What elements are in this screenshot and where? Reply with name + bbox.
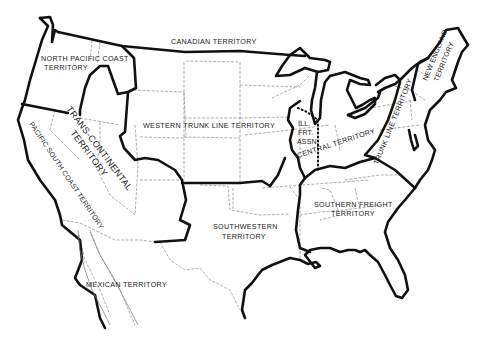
label-ill-frt-assn-2: FRT. (298, 129, 313, 136)
freight-territory-map: CANADIAN TERRITORY NORTH PACIFIC COAST T… (0, 0, 477, 344)
label-north-pacific-coast-2: TERRITORY (44, 63, 88, 72)
label-trunk-line: TRUNK LINE TERRITORY (372, 77, 415, 166)
southern-west (296, 178, 310, 252)
label-north-pacific-coast-1: NORTH PACIFIC COAST (41, 54, 129, 63)
label-southern-freight-2: TERRITORY (331, 209, 375, 218)
lake-michigan (311, 72, 330, 124)
lake-huron (330, 72, 375, 118)
wtl-south (182, 181, 270, 186)
label-western-trunk-line: WESTERN TRUNK LINE TERRITORY (143, 121, 275, 130)
chesapeake (409, 130, 418, 150)
npc-south (22, 104, 68, 113)
central-south (305, 158, 375, 178)
label-southwestern-1: SOUTHWESTERN (213, 222, 278, 231)
lake-superior (276, 48, 330, 76)
label-canadian: CANADIAN TERRITORY (171, 37, 257, 46)
label-southern-freight-1: SOUTHERN FREIGHT (314, 200, 393, 209)
label-ill-frt-assn-1: ILL. (298, 120, 310, 127)
label-southwestern-2: TERRITORY (222, 232, 266, 241)
tc-east (120, 92, 190, 242)
lake-ontario (376, 75, 400, 92)
label-mexican: MEXICAN TERRITORY (86, 280, 167, 289)
sw-east (270, 158, 285, 186)
